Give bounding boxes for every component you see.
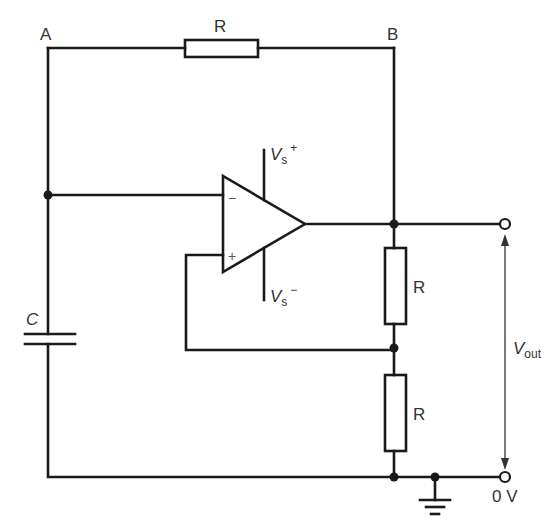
supply-neg-label: Vs− [270, 283, 297, 309]
feedback-resistor-label: R [214, 17, 226, 36]
vout-label: Vout [513, 339, 542, 361]
feedback-resistor [185, 40, 258, 57]
circuit-diagram: A B R − + Vs+ Vs− R R C 0 V [0, 0, 551, 529]
capacitor-label: C [26, 310, 39, 329]
noninverting-feedback-wire [186, 255, 394, 350]
node-b-label: B [387, 25, 398, 44]
vout-double-arrow [501, 234, 509, 470]
ground-label: 0 V [492, 487, 518, 506]
divider-resistor-top [385, 248, 406, 324]
junction-dot [390, 473, 399, 482]
noninverting-sign: + [228, 248, 236, 264]
divider-resistor-top-label: R [413, 278, 425, 297]
inverting-sign: − [228, 190, 236, 206]
ground-terminal [500, 472, 510, 482]
top-wire [48, 48, 394, 334]
supply-pos-label: Vs+ [270, 141, 297, 167]
ground-rail [48, 344, 501, 477]
divider-resistor-bottom [385, 375, 406, 451]
output-terminal [500, 219, 510, 229]
ground-icon [420, 477, 450, 514]
node-a-label: A [40, 25, 52, 44]
junction-dot [390, 220, 399, 229]
junction-dot [44, 191, 53, 200]
divider-resistor-bottom-label: R [413, 405, 425, 424]
